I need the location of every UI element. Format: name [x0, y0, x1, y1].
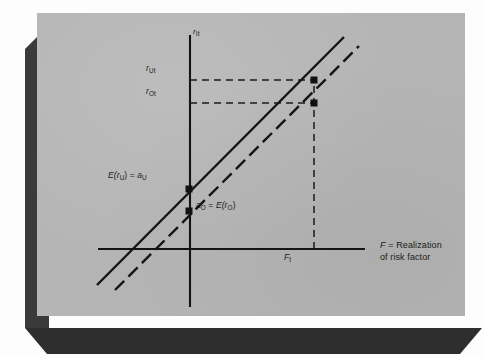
annotation-upper-intercept: E(rU) = aU — [108, 170, 147, 181]
ann-lower-close: ) — [233, 200, 236, 210]
ann-lower-eq: = — [206, 200, 216, 210]
ann-upper-a-sub: U — [142, 174, 147, 181]
plot-canvas — [37, 13, 465, 316]
ann-upper-close: ) = — [124, 170, 137, 180]
characteristic-line-o — [115, 46, 359, 290]
ann-upper-e: E( — [108, 170, 117, 180]
characteristic-line-u — [97, 37, 344, 285]
ann-upper-r-sub: U — [120, 174, 125, 181]
x-tick-ft-sub: t — [289, 256, 291, 263]
annotation-lower-intercept: aO = E(rO) — [196, 200, 236, 211]
marker-rut-point — [311, 77, 318, 84]
y-tick-label-rut: rUt — [146, 63, 156, 74]
x-axis-label: F = Realization of risk factor — [380, 240, 480, 263]
y-axis-label-sub: It — [196, 30, 200, 37]
figure-root: rIt rUt rOt E(rU) = aU aO = E(rO) Ft F =… — [0, 0, 484, 358]
x-axis-label-line1: = Realization — [388, 240, 442, 250]
marker-au-intercept — [186, 186, 193, 193]
y-axis-label: rIt — [193, 27, 200, 37]
x-tick-label-ft: Ft — [284, 252, 291, 263]
y-tick-rut-sub: Ut — [149, 67, 156, 74]
x-axis-label-symbol: F — [380, 240, 386, 250]
ann-lower-r-sub: O — [228, 204, 233, 211]
ann-lower-a-sub: O — [201, 204, 206, 211]
ann-lower-e: E( — [216, 200, 225, 210]
plate-bevel-bottom — [25, 328, 482, 354]
marker-ao-intercept — [186, 208, 193, 215]
y-tick-label-rot: rOt — [146, 86, 156, 97]
y-tick-rot-sub: Ot — [149, 90, 156, 97]
x-axis-label-line2: of risk factor — [380, 252, 430, 262]
marker-rot-point — [311, 100, 318, 107]
